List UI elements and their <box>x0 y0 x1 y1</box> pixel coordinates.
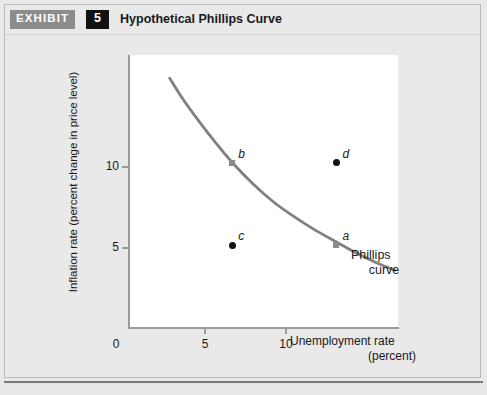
exhibit-root: EXHIBIT 5 Hypothetical Phillips Curve 10… <box>0 0 487 395</box>
data-point-b-marker <box>229 160 235 166</box>
data-point-c-label: c <box>238 229 244 243</box>
x-axis-title: Unemployment rate (percent) <box>290 334 440 364</box>
phillips-curve-annotation-line1: Phillips <box>351 248 417 263</box>
x-tick-10 <box>285 328 287 334</box>
data-point-d-label: d <box>342 147 349 161</box>
exhibit-header: EXHIBIT 5 Hypothetical Phillips Curve <box>10 9 282 29</box>
x-tick-5 <box>204 328 206 334</box>
x-axis-title-units: (percent) <box>290 349 440 364</box>
data-point-d-marker <box>333 159 340 166</box>
x-axis-line <box>128 327 399 329</box>
y-axis-title: Inflation rate (percent change in price … <box>67 57 79 307</box>
x-tick-label-0: 0 <box>104 337 128 351</box>
bottom-rule <box>4 381 483 383</box>
y-axis-line <box>128 55 130 328</box>
data-point-a-label: a <box>342 229 349 243</box>
x-tick-label-5: 5 <box>193 337 217 351</box>
data-point-b-label: b <box>238 147 245 161</box>
phillips-curve-annotation-line2: curve <box>351 263 417 278</box>
x-axis-title-line1: Unemployment rate <box>290 334 440 349</box>
plot-panel <box>128 55 398 327</box>
header-divider <box>5 34 480 35</box>
exhibit-tag: EXHIBIT <box>10 10 75 29</box>
y-tick-label-10: 10 <box>95 159 119 173</box>
data-point-a-marker <box>333 242 339 248</box>
y-tick-5 <box>122 247 128 249</box>
phillips-curve-chart: 10 5 0 5 10 Inflation rate (percent chan… <box>5 36 480 377</box>
data-point-c-marker <box>229 242 236 249</box>
exhibit-number-badge: 5 <box>86 10 109 29</box>
y-tick-label-5: 5 <box>95 240 119 254</box>
exhibit-title: Hypothetical Phillips Curve <box>120 12 282 26</box>
y-tick-10 <box>122 166 128 168</box>
phillips-curve-annotation: Phillips curve <box>351 248 417 278</box>
